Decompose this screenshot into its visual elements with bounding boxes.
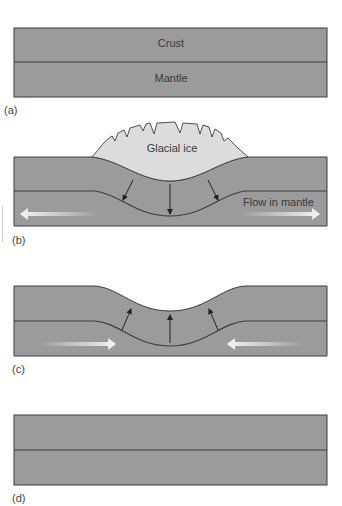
flow-in-mantle-label: Flow in mantle — [243, 196, 314, 208]
mantle-label: Mantle — [154, 72, 187, 84]
panel-c — [14, 286, 327, 356]
panel-label-b: (b) — [12, 234, 25, 246]
panel-label-c: (c) — [12, 363, 25, 375]
panel-label-a: (a) — [4, 104, 17, 116]
crust-label: Crust — [158, 37, 184, 49]
panel-b — [14, 122, 327, 226]
panel-label-d: (d) — [12, 492, 25, 504]
panel-d — [14, 415, 327, 485]
glacial-ice-label: Glacial ice — [147, 142, 198, 154]
